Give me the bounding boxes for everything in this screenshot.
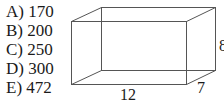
- edge-bottom-left: [72, 71, 102, 85]
- edge-top-left: [72, 8, 102, 22]
- edge-top-right: [187, 8, 216, 22]
- front-face: [72, 22, 187, 85]
- width-label: 7: [197, 80, 205, 96]
- length-label: 12: [120, 87, 136, 100]
- back-face: [102, 8, 216, 71]
- height-label: 8: [219, 38, 224, 54]
- rectangular-prism-figure: [0, 0, 224, 100]
